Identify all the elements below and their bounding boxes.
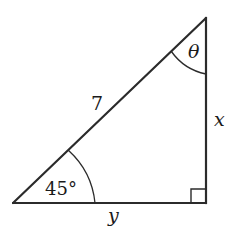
hypotenuse-line [13, 18, 206, 203]
horizontal-side-label: y [107, 204, 119, 226]
right-angle-marker [191, 189, 206, 203]
vertical-side-label: x [214, 108, 225, 130]
hypotenuse-label: 7 [91, 92, 103, 114]
triangle-diagram: 7 x y 45° θ [0, 0, 243, 229]
top-angle-label: θ [188, 40, 200, 62]
bottom-left-angle-label: 45° [45, 178, 77, 199]
